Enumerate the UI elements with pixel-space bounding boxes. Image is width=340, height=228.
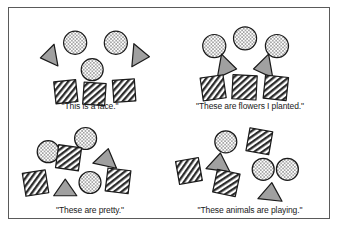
shape-square [22, 170, 48, 196]
shape-triangle [38, 44, 57, 68]
shape-circle [276, 158, 298, 180]
panel-pretty-caption: "These are pretty." [13, 205, 167, 215]
shape-square [56, 145, 82, 171]
shape-circle [81, 59, 103, 81]
panel-animals-art [173, 115, 327, 217]
shape-triangle [132, 44, 151, 68]
shape-square [232, 75, 257, 100]
shape-triangle [93, 146, 120, 168]
panel-face: "This is a face." [13, 11, 167, 113]
figure-border: "This is a face." "These are flowers I p… [8, 7, 330, 219]
panel-face-art [13, 11, 167, 113]
shape-circle [79, 172, 101, 194]
shape-circle [252, 158, 274, 180]
shape-square [112, 79, 135, 102]
shape-square [105, 168, 131, 194]
panel-pretty-art [13, 115, 167, 217]
panel-animals-caption: "These animals are playing." [173, 205, 327, 215]
shape-square [263, 75, 288, 100]
shape-triangle [258, 181, 284, 201]
shape-square [176, 158, 203, 185]
shape-circle [37, 141, 59, 163]
shape-square [213, 169, 240, 196]
shape-triangle [206, 151, 232, 172]
panel-face-caption: "This is a face." [13, 101, 167, 111]
shape-circle [75, 128, 97, 150]
panel-animals: "These animals are playing." [173, 115, 327, 217]
panel-flowers-caption: "These are flowers I planted." [173, 101, 327, 111]
panel-flowers: "These are flowers I planted." [173, 11, 327, 113]
shape-circle [215, 131, 237, 153]
shape-triangle [54, 179, 77, 196]
shape-circle [104, 31, 127, 54]
shape-circle [64, 31, 87, 54]
shape-square [200, 75, 226, 101]
panel-pretty: "These are pretty." [13, 115, 167, 217]
figure-container: "This is a face." "These are flowers I p… [0, 0, 340, 228]
shape-square [246, 128, 273, 155]
panel-flowers-art [173, 11, 327, 113]
shape-circle [234, 27, 257, 50]
